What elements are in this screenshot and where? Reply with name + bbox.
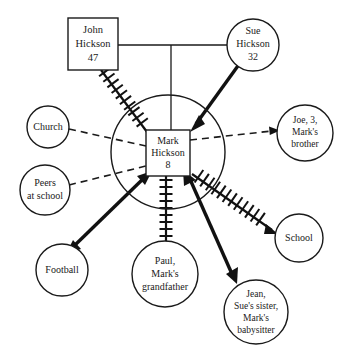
john-hickson-line-1: John <box>83 24 104 35</box>
node-peers-at-school[interactable]: Peers at school <box>20 165 70 215</box>
connection-mark-school-stressful <box>192 170 278 234</box>
paul-line-1: Paul, <box>155 255 175 266</box>
node-joe-brother[interactable]: Joe, 3, Mark's brother <box>277 105 333 161</box>
jean-line-4: babysitter <box>237 325 275 335</box>
joe-line-1: Joe, 3, <box>293 115 318 125</box>
node-sue-hickson[interactable]: Sue Hickson 32 <box>227 19 279 71</box>
joe-line-2: Mark's <box>292 127 318 137</box>
connection-sue-mark-strong <box>190 63 240 132</box>
sue-hickson-line-2: Hickson <box>236 38 269 49</box>
john-hickson-line-3: 47 <box>88 52 99 63</box>
peers-line-2: at school <box>27 190 63 201</box>
jean-line-1: Jean, <box>246 289 265 299</box>
mark-hickson-line-2: Hickson <box>151 147 184 158</box>
peers-line-1: Peers <box>34 177 56 188</box>
connection-peers-mark-tenuous <box>69 166 146 185</box>
node-john-hickson[interactable]: John Hickson 47 <box>68 18 118 70</box>
church-label: Church <box>33 121 62 132</box>
mark-hickson-line-1: Mark <box>157 135 179 146</box>
mark-hickson-line-3: 8 <box>166 159 171 170</box>
sue-hickson-line-3: 32 <box>248 51 258 62</box>
joe-line-3: brother <box>291 139 319 149</box>
jean-line-2: Sue's sister, <box>234 301 278 311</box>
sue-hickson-line-1: Sue <box>246 25 262 36</box>
school-label: School <box>285 232 313 243</box>
ecomap-canvas: John Hickson 47 Sue Hickson 32 Mark Hick… <box>0 0 354 364</box>
node-mark-hickson[interactable]: Mark Hickson 8 <box>146 130 190 176</box>
football-label: Football <box>45 264 79 275</box>
jean-line-3: Mark's <box>243 313 269 323</box>
connection-mark-football-strong <box>66 171 152 254</box>
node-football[interactable]: Football <box>36 244 88 296</box>
node-paul-grandfather[interactable]: Paul, Mark's grandfather <box>132 241 198 307</box>
john-hickson-line-2: Hickson <box>76 38 112 49</box>
node-jean-babysitter[interactable]: Jean, Sue's sister, Mark's babysitter <box>224 280 288 344</box>
ecomap-diagram: John Hickson 47 Sue Hickson 32 Mark Hick… <box>0 0 354 364</box>
connection-mark-joe-tenuous <box>190 127 280 141</box>
connection-church-mark-tenuous <box>69 129 146 146</box>
node-church[interactable]: Church <box>27 106 69 148</box>
paul-line-3: grandfather <box>142 281 189 292</box>
connection-john-mark-stressful <box>99 68 148 132</box>
paul-line-2: Mark's <box>151 268 178 279</box>
node-school[interactable]: School <box>275 214 323 262</box>
